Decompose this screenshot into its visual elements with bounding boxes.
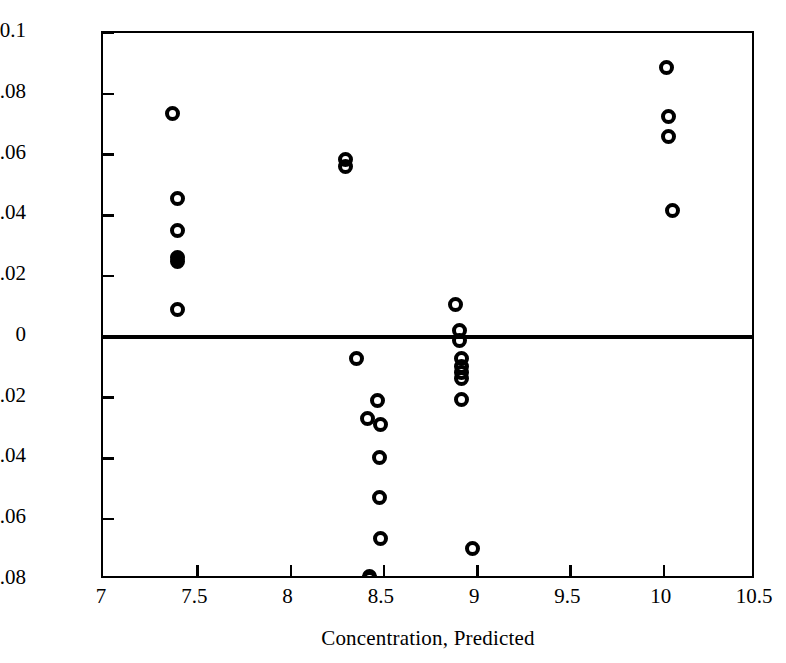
y-axis-tick xyxy=(103,457,114,459)
x-axis-tick-label: 10.5 xyxy=(709,586,786,607)
data-point-marker xyxy=(170,223,185,238)
plot-area xyxy=(103,33,752,576)
data-point-marker xyxy=(372,490,387,505)
x-axis-tick xyxy=(663,565,665,576)
y-axis-tick-label: 0.06 xyxy=(0,142,26,163)
data-point-marker xyxy=(373,417,388,432)
y-axis-tick xyxy=(103,33,114,34)
x-axis-title: Concentration, Predicted xyxy=(101,626,755,651)
y-axis-tick-label: 0.08 xyxy=(0,81,26,102)
data-point-marker xyxy=(338,159,353,174)
y-axis-tick-label: -0.06 xyxy=(0,506,26,527)
data-point-marker xyxy=(465,541,480,556)
y-axis-tick-label: 0 xyxy=(0,324,26,345)
x-axis-tick-label: 9 xyxy=(429,586,519,607)
data-point-marker xyxy=(452,333,467,348)
y-axis-tick-label: 0.04 xyxy=(0,202,26,223)
data-point-marker xyxy=(448,297,463,312)
data-point-marker xyxy=(372,450,387,465)
data-point-marker xyxy=(454,371,469,386)
x-axis-tick xyxy=(476,565,478,576)
y-axis-tick xyxy=(103,518,114,520)
x-axis-tick-label: 7.5 xyxy=(149,586,239,607)
data-point-marker xyxy=(165,106,180,121)
y-axis-tick-label: 0.02 xyxy=(0,263,26,284)
y-axis-tick xyxy=(103,153,114,155)
x-axis-tick xyxy=(196,565,198,576)
data-point-marker xyxy=(661,109,676,124)
x-axis-tick xyxy=(383,565,385,576)
y-axis-tick-label: -0.02 xyxy=(0,385,26,406)
data-point-marker xyxy=(454,392,469,407)
y-axis-tick xyxy=(103,214,114,216)
y-axis-tick xyxy=(103,93,114,95)
x-axis-tick xyxy=(569,565,571,576)
x-axis-tick-label: 9.5 xyxy=(522,586,612,607)
x-axis-tick-label: 7 xyxy=(56,586,146,607)
data-point-marker xyxy=(170,302,185,317)
data-point-marker xyxy=(349,351,364,366)
y-axis-tick xyxy=(103,275,114,277)
data-point-marker xyxy=(373,531,388,546)
data-point-marker xyxy=(170,191,185,206)
data-point-marker xyxy=(661,129,676,144)
data-point-marker xyxy=(370,393,385,408)
x-axis-tick xyxy=(290,565,292,576)
data-point-marker xyxy=(665,203,680,218)
data-point-marker xyxy=(170,254,185,269)
y-axis-tick-label: -0.04 xyxy=(0,445,26,466)
x-axis-tick-label: 8.5 xyxy=(336,586,426,607)
data-point-marker xyxy=(659,60,674,75)
y-axis-tick xyxy=(103,396,114,398)
x-axis-tick-label: 10 xyxy=(616,586,706,607)
y-axis-tick-label: -0.08 xyxy=(0,567,26,588)
zero-residual-line xyxy=(103,335,752,339)
residual-scatter-figure: Concentration, Residual Concentration, P… xyxy=(0,0,786,663)
plot-frame xyxy=(101,31,754,578)
y-axis-tick-label: 0.1 xyxy=(0,20,26,41)
x-axis-tick-label: 8 xyxy=(243,586,333,607)
